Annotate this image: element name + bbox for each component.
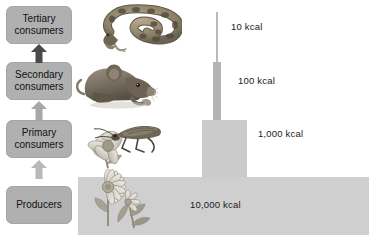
grasshopper-illustration (80, 112, 166, 170)
trophic-label-line2: consumers (15, 81, 64, 93)
flower-illustration (88, 168, 164, 230)
mouse-illustration (74, 54, 158, 110)
trophic-box-producers: Producers (6, 186, 72, 224)
trophic-label-line1: Primary (22, 127, 56, 139)
trophic-label-line1: Tertiary (23, 13, 56, 25)
trophic-box-secondary-consumers: Secondary consumers (6, 62, 72, 100)
label-10-kcal: 10 kcal (231, 21, 263, 32)
arrow-up-icon-producers-to-primary (30, 160, 48, 179)
trophic-label-line2: consumers (15, 139, 64, 151)
arrow-up-icon-primary-to-secondary (30, 101, 48, 120)
energy-pyramid-figure: 10 kcal 100 kcal 1,000 kcal 10,000 kcal … (0, 0, 369, 235)
bar-10-kcal (216, 12, 218, 62)
trophic-label-line1: Secondary (15, 69, 63, 81)
trophic-box-primary-consumers: Primary consumers (6, 120, 72, 158)
bar-100-kcal (213, 62, 221, 120)
trophic-label-line1: Producers (16, 199, 62, 211)
arrow-up-icon-secondary-to-tertiary (30, 44, 48, 63)
label-100-kcal: 100 kcal (238, 75, 275, 86)
label-10000-kcal: 10,000 kcal (190, 199, 241, 210)
label-1000-kcal: 1,000 kcal (258, 128, 303, 139)
trophic-label-line2: consumers (15, 25, 64, 37)
bar-1000-kcal (202, 120, 247, 177)
snake-illustration (96, 2, 182, 52)
trophic-box-tertiary-consumers: Tertiary consumers (6, 6, 72, 44)
